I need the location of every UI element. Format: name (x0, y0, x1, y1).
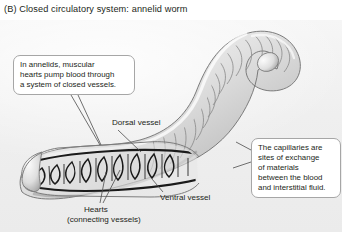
label-hearts: Hearts (connecting vessels) (84, 205, 141, 226)
label-hearts-line-2: (connecting vessels) (67, 215, 141, 225)
callout-right-line-5: and interstitial fluid. (258, 183, 335, 193)
callout-right-line-1: The capillaries are (258, 143, 335, 153)
leader-callout-left-a (71, 95, 100, 145)
callout-left-line-1: In annelids, muscular (20, 60, 129, 70)
callout-right-line-3: of materials (258, 163, 335, 173)
callout-right-line-2: sites of exchange (258, 153, 335, 163)
worm-head-tip (22, 152, 42, 192)
callout-closed-vessels: In annelids, muscular hearts pump blood … (13, 55, 135, 95)
leader-callout-right-b (233, 162, 251, 168)
callout-left-line-3: a system of closed vessels. (20, 80, 129, 90)
leader-callout-right-a (236, 142, 251, 150)
label-hearts-line-1: Hearts (84, 205, 108, 214)
callout-right-line-4: between the blood (258, 173, 335, 183)
anterior-cutaway (22, 142, 200, 197)
callout-capillary-exchange: The capillaries are sites of exchange of… (251, 138, 341, 198)
label-ventral-vessel: Ventral vessel (160, 193, 210, 203)
callout-left-line-2: hearts pump blood through (20, 70, 129, 80)
figure-panel-b: (B) Closed circulatory system: annelid w… (0, 0, 342, 232)
leader-callout-left-b (78, 95, 101, 145)
label-dorsal-vessel: Dorsal vessel (112, 118, 161, 128)
